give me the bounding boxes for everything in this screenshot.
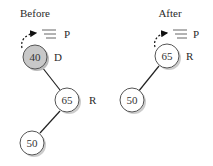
before-panel: Before P 40 D 65 R 50 — [20, 7, 97, 157]
svg-text:50: 50 — [127, 94, 139, 106]
after-pointer-label: P — [193, 28, 199, 40]
tree-node: 50 — [120, 88, 146, 114]
tree-node: 50 — [20, 131, 46, 157]
svg-text:65: 65 — [162, 50, 174, 62]
node-tag: R — [89, 94, 97, 106]
after-panel: After P 65 R 50 — [120, 7, 199, 114]
tree-node: 65 — [55, 88, 81, 114]
tree-node-deleted: 40 — [23, 45, 49, 71]
node-tag: R — [186, 50, 194, 62]
after-title: After — [158, 7, 182, 19]
edge — [42, 67, 60, 90]
node-tag: D — [54, 51, 62, 63]
edge — [138, 66, 159, 92]
before-pointer-label: P — [64, 28, 70, 40]
svg-text:65: 65 — [62, 94, 74, 106]
svg-text:50: 50 — [27, 137, 39, 149]
bst-deletion-diagram: Before P 40 D 65 R 50 — [0, 0, 213, 166]
svg-text:40: 40 — [30, 51, 42, 63]
edge — [40, 111, 60, 133]
before-title: Before — [20, 7, 50, 19]
